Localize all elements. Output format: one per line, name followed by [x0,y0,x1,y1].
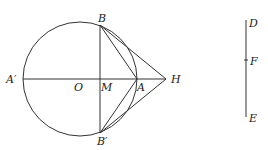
label-a: A [136,81,145,94]
label-a-prime: A′ [5,73,17,86]
label-b: B [97,12,106,25]
segment-b-a [100,25,137,79]
label-f: F [249,55,258,68]
label-b-prime: B′ [96,135,108,148]
segment-b-h [100,25,166,79]
label-d: D [248,17,258,30]
label-m: M [100,81,113,94]
label-e: E [248,112,257,125]
label-o: O [74,81,83,94]
geometry-diagram: A′ O M A H B B′ D F E [0,0,268,150]
label-h: H [170,73,181,86]
